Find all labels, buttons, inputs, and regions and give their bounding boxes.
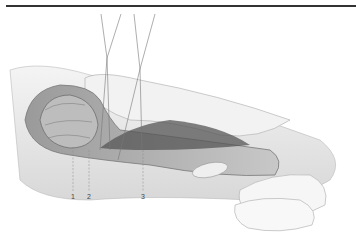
label-1: 1 [71,193,75,200]
label-3: 3 [141,193,145,200]
label-2: 2 [87,193,91,200]
foot-lower [235,198,315,231]
illustration [0,0,356,251]
